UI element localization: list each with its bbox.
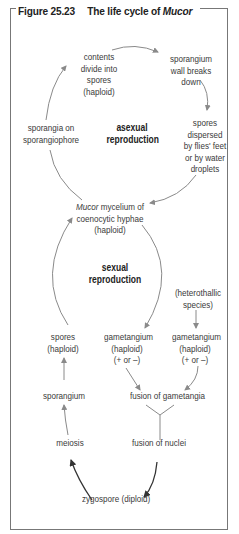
node-line: (heterothallic [174,287,222,299]
node-mucor-mycelium: Mucor mycelium of coenocytic hyphae (hap… [76,201,144,236]
node-spores-dispersed: spores dispersed by flies' feet or by wa… [180,117,231,175]
node-zygospore: zygospore (diploid) [82,493,150,505]
label-line: sexual [85,262,145,274]
node-line: spores [69,74,129,86]
node-line: gametangium [172,331,218,343]
node-line: gametangium [104,331,150,343]
arrow-spores-to-mycelium [52,218,72,325]
label-sexual-reproduction: sexual reproduction [85,262,145,285]
label-asexual-reproduction: asexual reproduction [107,122,158,145]
node-meiosis: meiosis [53,437,87,449]
mycelium-line1: mycelium of [99,201,144,212]
node-line: sporangiophore [23,134,79,146]
node-line: fusion of nuclei [131,437,187,449]
mycelium-genus: Mucor [76,201,98,212]
arrow-gametangium-left-to-fusion [126,368,140,390]
node-line: (haploid) [69,86,129,98]
node-line: Mucor mycelium of [76,201,144,213]
arrow-meiosis-to-sporangium [64,405,68,435]
node-line: zygospore (diploid) [82,493,150,505]
node-line: or by water [180,152,231,164]
node-line: wall breaks [165,65,218,77]
node-line: (+ or –) [172,354,218,366]
node-sporangia-on-sporangiophore: sporangia on sporangiophore [23,122,79,145]
node-line: spores [43,331,82,343]
node-line: sporangium [40,390,88,402]
arrow-mycelium-to-sporangia [50,150,82,200]
node-heterothallic: (heterothallic species) [174,287,222,310]
node-line: divide into [69,63,129,75]
arrow-dispersed-to-mycelium [150,175,196,203]
node-line: by flies' feet [180,140,231,152]
arrow-mycelium-to-gametangium [142,225,162,328]
node-line: spores [180,117,231,129]
node-line: droplets [180,163,231,175]
node-line: meiosis [53,437,87,449]
node-line: (haploid) [43,343,82,355]
label-line: asexual [107,122,158,134]
node-sporangium: sporangium [40,390,88,402]
label-line: reproduction [85,274,145,286]
node-sporangium-wall: sporangium wall breaks down [165,53,218,88]
node-line: (haploid) [172,343,218,355]
node-line: species) [174,299,222,311]
node-line: (haploid) [76,224,144,236]
label-line: reproduction [107,134,158,146]
node-line: dispersed [180,129,231,141]
node-line: coenocytic hyphae [76,213,144,225]
node-gametangium-left: gametangium (haploid) (+ or –) [104,331,150,366]
node-line: sporangium [165,53,218,65]
node-line: (haploid) [104,343,150,355]
arrow-gametangium-right-to-fusion [185,366,198,390]
node-spores-haploid: spores (haploid) [43,331,82,354]
node-line: sporangia on [23,122,79,134]
fusion-y-connector [146,405,174,440]
node-line: down [165,76,218,88]
node-line: fusion of gametangia [130,390,198,402]
node-contents-divide: contents divide into spores (haploid) [69,51,129,97]
node-line: (+ or –) [104,354,150,366]
node-line: contents [69,51,129,63]
node-fusion-of-nuclei: fusion of nuclei [131,437,187,449]
arrow-sporangia-to-contents [46,66,66,120]
node-gametangium-right: gametangium (haploid) (+ or –) [172,331,218,366]
arrow-nuclei-to-zygospore [144,462,157,497]
node-fusion-of-gametangia: fusion of gametangia [130,390,198,402]
